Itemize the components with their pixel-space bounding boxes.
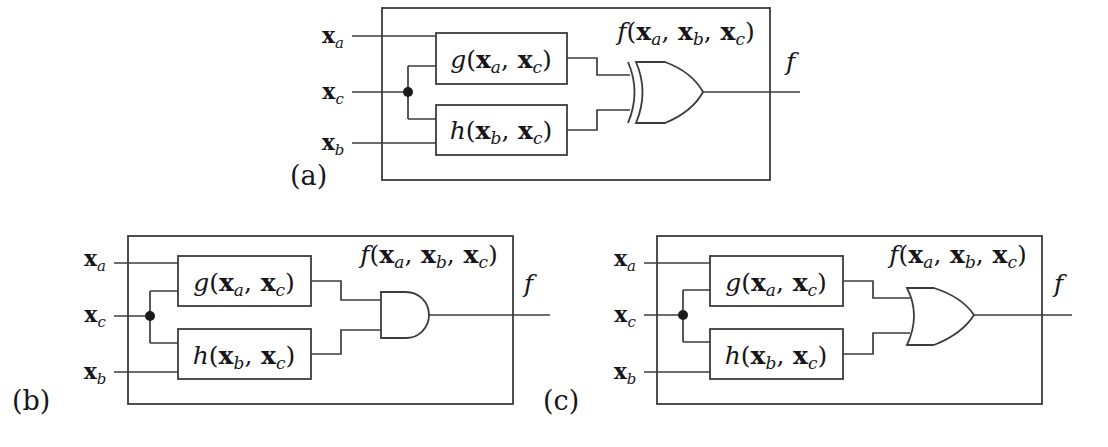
b-h-arg1-main: x bbox=[219, 341, 235, 370]
b-xb-main: x bbox=[84, 358, 98, 384]
b-h-paren-open: ( bbox=[209, 341, 219, 370]
fa-comma1: , bbox=[661, 17, 669, 46]
panel-c-h-label: h(xb, xc) bbox=[725, 341, 828, 373]
c-xb-sub: b bbox=[627, 370, 637, 388]
panel-a-caption: (a) bbox=[290, 160, 327, 191]
b-g-arg2-main: x bbox=[252, 268, 277, 297]
panel-c-output-label: f bbox=[1052, 269, 1067, 298]
xb-main: x bbox=[322, 129, 336, 155]
b-f-arg1-main: x bbox=[379, 240, 395, 269]
b-h-arg1-sub: b bbox=[234, 353, 245, 373]
b-g-paren-open: ( bbox=[209, 268, 219, 297]
c-h-arg1-sub: b bbox=[766, 353, 777, 373]
fa-paren-close: ) bbox=[745, 17, 755, 46]
circuit-figure: xa xc xb g(xa, xc) h(xb, xc) bbox=[0, 0, 1108, 447]
fa-comma2: , bbox=[704, 17, 712, 46]
c-xc-main: x bbox=[614, 301, 628, 327]
g-paren-open: ( bbox=[466, 45, 476, 74]
h-arg1-sub: b bbox=[491, 128, 502, 148]
c-g-comma: , bbox=[776, 268, 784, 297]
b-h-fn-name: h bbox=[193, 341, 209, 370]
c-xa-main: x bbox=[614, 245, 628, 271]
c-h-paren-open: ( bbox=[741, 341, 751, 370]
panel-c-wire-h-to-gate bbox=[843, 333, 910, 354]
c-h-arg2-sub: c bbox=[808, 353, 818, 373]
b-h-comma: , bbox=[244, 341, 252, 370]
panel-b-wire-h-to-gate bbox=[311, 330, 381, 354]
c-g-arg1-main: x bbox=[751, 268, 767, 297]
c-f-comma1: , bbox=[933, 240, 941, 269]
xor-gate-back-arc bbox=[628, 62, 635, 123]
xa-main: x bbox=[322, 22, 336, 48]
c-f-arg2-sub: b bbox=[965, 252, 976, 272]
panel-c: xa xc xb g(xa, xc) h(xb, xc) f(xa, xb, x bbox=[543, 236, 1072, 416]
c-h-comma: , bbox=[776, 341, 784, 370]
panel-a-input-xc-label: xc bbox=[322, 78, 344, 108]
b-g-arg2-sub: c bbox=[276, 280, 286, 300]
panel-b-internal-signal-label: f(xa, xb, xc) bbox=[358, 240, 497, 272]
panel-a-wire-g-to-gate bbox=[567, 58, 630, 75]
h-comma: , bbox=[501, 116, 509, 145]
c-g-paren-open: ( bbox=[741, 268, 751, 297]
h-paren-close: ) bbox=[543, 116, 553, 145]
panel-a-input-xa-label: xa bbox=[322, 22, 344, 52]
fa-arg1-main: x bbox=[636, 17, 652, 46]
b-xc-main: x bbox=[84, 301, 98, 327]
panel-b-output-label: f bbox=[522, 269, 537, 298]
g-arg1-main: x bbox=[476, 45, 492, 74]
b-g-arg1-main: x bbox=[219, 268, 235, 297]
panel-a-h-label: h(xb, xc) bbox=[450, 116, 553, 148]
fa-paren-open: ( bbox=[627, 17, 637, 46]
fa-arg2-main: x bbox=[669, 17, 694, 46]
c-f-paren-open: ( bbox=[899, 240, 909, 269]
xc-sub: c bbox=[335, 90, 344, 108]
c-h-fn-name: h bbox=[725, 341, 741, 370]
b-f-arg3-sub: c bbox=[478, 252, 488, 272]
panel-c-caption: (c) bbox=[543, 385, 579, 416]
b-f-comma2: , bbox=[447, 240, 455, 269]
b-f-arg2-main: x bbox=[412, 240, 437, 269]
c-xc-sub: c bbox=[627, 313, 636, 331]
panel-b: xa xc xb g(xa, xc) h(xb, xc) f(xa, xb, x bbox=[12, 236, 550, 416]
fa-arg3-sub: c bbox=[735, 29, 745, 49]
c-g-arg2-sub: c bbox=[808, 280, 818, 300]
c-xb-main: x bbox=[614, 358, 628, 384]
panel-b-g-label: g(xa, xc) bbox=[193, 268, 295, 300]
b-h-arg2-main: x bbox=[252, 341, 277, 370]
c-f-paren-close: ) bbox=[1017, 240, 1027, 269]
c-f-comma2: , bbox=[976, 240, 984, 269]
panel-a-xor-gate bbox=[628, 62, 703, 123]
c-h-arg1-main: x bbox=[751, 341, 767, 370]
panel-a-junction-dot bbox=[403, 87, 413, 97]
xc-main: x bbox=[322, 78, 336, 104]
h-arg2-sub: c bbox=[533, 128, 543, 148]
fa-arg2-sub: b bbox=[693, 29, 704, 49]
panel-c-internal-signal-label: f(xa, xb, xc) bbox=[887, 240, 1026, 272]
panel-b-input-xb-label: xb bbox=[84, 358, 107, 388]
panel-c-input-xb-label: xb bbox=[614, 358, 637, 388]
b-xa-sub: a bbox=[97, 257, 106, 275]
b-g-comma: , bbox=[244, 268, 252, 297]
c-g-paren-close: ) bbox=[817, 268, 827, 297]
fa-arg1-sub: a bbox=[651, 29, 661, 49]
h-arg2-main: x bbox=[509, 116, 534, 145]
g-comma: , bbox=[501, 45, 509, 74]
panel-c-junction-dot bbox=[678, 310, 688, 320]
h-arg1-main: x bbox=[476, 116, 492, 145]
g-arg2-sub: c bbox=[533, 57, 543, 77]
h-fn-name: h bbox=[450, 116, 466, 145]
b-xa-main: x bbox=[84, 245, 98, 271]
g-fn-name: g bbox=[450, 45, 466, 74]
panel-c-input-xa-label: xa bbox=[614, 245, 636, 275]
panel-b-caption: (b) bbox=[12, 385, 50, 416]
c-xa-sub: a bbox=[627, 257, 636, 275]
b-h-arg2-sub: c bbox=[276, 353, 286, 373]
c-h-paren-close: ) bbox=[818, 341, 828, 370]
fa-arg3-main: x bbox=[712, 17, 737, 46]
g-arg2-main: x bbox=[509, 45, 534, 74]
c-g-arg1-sub: a bbox=[766, 280, 776, 300]
b-f-comma1: , bbox=[404, 240, 412, 269]
panel-a-internal-signal-label: f(xa, xb, xc) bbox=[615, 17, 754, 49]
panel-b-and-gate bbox=[381, 292, 429, 338]
b-xb-sub: b bbox=[97, 370, 107, 388]
